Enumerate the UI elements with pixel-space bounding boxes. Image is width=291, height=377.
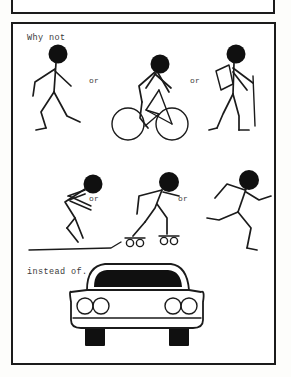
main-comic-panel: Why not instead of... or or or or — [11, 22, 276, 365]
cyclist-stick-figure — [113, 42, 195, 142]
running-stick-figure — [205, 154, 276, 258]
separator-or-1: or — [89, 76, 99, 85]
walking-stick-figure — [27, 42, 89, 134]
rollerblader-stick-figure — [115, 154, 193, 258]
top-empty-panel — [11, 0, 275, 14]
car-front-view — [61, 256, 213, 348]
hiker-with-backpack-stick-figure — [203, 38, 271, 138]
